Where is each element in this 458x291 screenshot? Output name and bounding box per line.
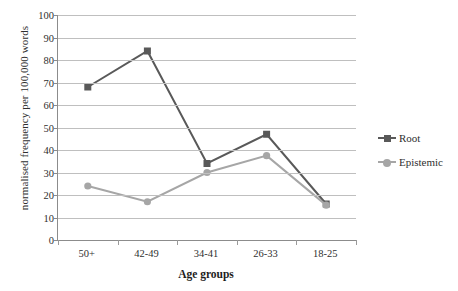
x-tick-label: 26-33 xyxy=(253,248,278,259)
data-point-root xyxy=(204,160,211,167)
data-point-epistemic xyxy=(263,152,270,159)
gridline xyxy=(58,128,356,129)
x-axis-line xyxy=(58,240,356,241)
y-tick-label: 80 xyxy=(44,55,55,66)
gridline xyxy=(58,195,356,196)
legend-swatch-icon xyxy=(378,133,396,143)
y-tick-label: 100 xyxy=(38,10,54,21)
gridline xyxy=(58,173,356,174)
y-tick-label: 10 xyxy=(44,212,55,223)
plot-area xyxy=(57,15,356,240)
y-tick-mark xyxy=(54,173,58,174)
y-tick-label: 20 xyxy=(44,190,55,201)
x-axis-tick-labels: 50+42-4934-4126-3318-25 xyxy=(57,248,355,264)
data-point-root xyxy=(144,48,151,55)
y-tick-label: 60 xyxy=(44,100,55,111)
x-tick-mark xyxy=(237,240,238,245)
y-tick-mark xyxy=(54,218,58,219)
y-tick-mark xyxy=(54,83,58,84)
gridline xyxy=(58,38,356,39)
gridline xyxy=(58,15,356,16)
line-chart: normalised frequency per 100,000 words 0… xyxy=(0,0,458,291)
data-point-epistemic xyxy=(144,198,151,205)
y-tick-mark xyxy=(54,150,58,151)
y-tick-mark xyxy=(54,38,58,39)
y-tick-label: 30 xyxy=(44,167,55,178)
x-tick-mark xyxy=(177,240,178,245)
legend-swatch-icon xyxy=(378,157,396,167)
legend-label: Root xyxy=(399,132,420,144)
y-tick-label: 40 xyxy=(44,145,55,156)
data-point-epistemic xyxy=(84,182,91,189)
gridline xyxy=(58,150,356,151)
legend-item-epistemic[interactable]: Epistemic xyxy=(378,150,458,174)
data-point-epistemic xyxy=(323,202,330,209)
x-tick-label: 42-49 xyxy=(134,248,159,259)
x-tick-mark xyxy=(58,240,59,245)
x-tick-mark xyxy=(118,240,119,245)
x-tick-label: 18-25 xyxy=(313,248,338,259)
chart-legend: RootEpistemic xyxy=(378,126,458,174)
x-tick-mark xyxy=(356,240,357,245)
y-tick-mark xyxy=(54,60,58,61)
legend-label: Epistemic xyxy=(399,156,443,168)
y-tick-mark xyxy=(54,195,58,196)
x-tick-label: 34-41 xyxy=(194,248,219,259)
gridline xyxy=(58,83,356,84)
x-tick-label: 50+ xyxy=(79,248,95,259)
y-axis-tick-labels: 0102030405060708090100 xyxy=(24,0,54,291)
gridline xyxy=(58,60,356,61)
y-tick-mark xyxy=(54,105,58,106)
gridline xyxy=(58,105,356,106)
y-tick-mark xyxy=(54,15,58,16)
y-tick-label: 70 xyxy=(44,77,55,88)
legend-item-root[interactable]: Root xyxy=(378,126,458,150)
data-point-root xyxy=(84,84,91,91)
data-point-root xyxy=(263,131,270,138)
x-tick-mark xyxy=(296,240,297,245)
gridline xyxy=(58,218,356,219)
y-tick-label: 50 xyxy=(44,122,55,133)
x-axis-title: Age groups xyxy=(57,268,355,280)
y-tick-mark xyxy=(54,128,58,129)
y-tick-label: 90 xyxy=(44,32,55,43)
